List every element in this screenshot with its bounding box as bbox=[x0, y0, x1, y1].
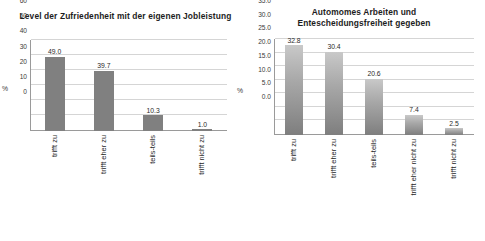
chart-panel-left: Level der Zufriedenheit mit der eigenen … bbox=[0, 0, 243, 241]
y-axis-labels-right: 0.05.010.015.020.025.030.035.0 bbox=[243, 0, 271, 241]
y-tick-label: 5.0 bbox=[262, 79, 271, 86]
y-tick-label: 60 bbox=[20, 0, 27, 4]
x-tick-slot: trifft nicht zu bbox=[178, 133, 227, 229]
y-tick-label: 35.0 bbox=[258, 0, 271, 4]
y-tick-label: 30 bbox=[20, 42, 27, 49]
y-tick-label: 15.0 bbox=[258, 51, 271, 58]
x-tick-slot: trifft eher zu bbox=[79, 133, 128, 229]
y-axis-unit-left: % bbox=[2, 85, 8, 92]
bar[interactable] bbox=[143, 115, 163, 131]
bar-series-left: 49.039.710.31.0 bbox=[30, 40, 227, 131]
bar-series-right: 32.830.420.67.42.5 bbox=[274, 39, 474, 135]
x-tick-slot: teils-teils bbox=[354, 137, 394, 229]
x-tick-slot: trifft eher zu bbox=[314, 137, 354, 229]
bar-slot: 1.0 bbox=[178, 40, 227, 131]
y-tick-label: 20 bbox=[20, 57, 27, 64]
y-tick-label: 10.0 bbox=[258, 65, 271, 72]
bar-value-label: 32.8 bbox=[287, 37, 300, 44]
x-tick-label: trifft nicht zu bbox=[450, 139, 458, 179]
bar[interactable] bbox=[285, 45, 303, 135]
chart-title-left-line-1: Level der Zufriedenheit mit der eigenen … bbox=[8, 11, 243, 22]
bar-slot: 49.0 bbox=[30, 40, 79, 131]
chart-title-right-line-2: Entescheidungsfreiheit gegeben bbox=[243, 18, 485, 29]
x-tick-label: trifft eher zu bbox=[100, 135, 108, 174]
bar-slot: 30.4 bbox=[314, 39, 354, 135]
bar-slot: 10.3 bbox=[129, 40, 178, 131]
chart-panel-right: Automomes Arbeiten und Entescheidungsfre… bbox=[243, 0, 485, 241]
two-bar-charts-figure: Level der Zufriedenheit mit der eigenen … bbox=[0, 0, 485, 241]
y-axis-labels-left: 0102030405060 bbox=[8, 0, 27, 241]
bar[interactable] bbox=[45, 57, 65, 131]
bar-slot: 7.4 bbox=[394, 39, 434, 135]
x-tick-label: trifft nicht zu bbox=[198, 135, 206, 175]
x-tick-label: trifft eher nicht zu bbox=[410, 139, 418, 196]
x-tick-slot: teils-teils bbox=[129, 133, 178, 229]
bar-value-label: 39.7 bbox=[97, 62, 110, 69]
bar-slot: 20.6 bbox=[354, 39, 394, 135]
bar-value-label: 2.5 bbox=[449, 120, 458, 127]
bar-value-label: 20.6 bbox=[367, 70, 380, 77]
chart-title-right-line-1: Automomes Arbeiten und bbox=[243, 7, 485, 18]
bar-value-label: 10.3 bbox=[147, 107, 160, 114]
y-tick-label: 10 bbox=[20, 72, 27, 79]
plot-area-left: 49.039.710.31.0 bbox=[30, 40, 227, 131]
x-tick-label: trifft zu bbox=[290, 139, 298, 161]
x-tick-label: teils-teils bbox=[149, 135, 157, 164]
x-tick-slot: trifft nicht zu bbox=[434, 137, 474, 229]
x-tick-slot: trifft zu bbox=[274, 137, 314, 229]
bar-value-label: 1.0 bbox=[198, 121, 207, 128]
x-tick-label: trifft eher zu bbox=[330, 139, 338, 178]
x-tick-label: teils-teils bbox=[370, 139, 378, 168]
bar[interactable] bbox=[325, 52, 343, 135]
bar[interactable] bbox=[365, 79, 383, 136]
x-tick-slot: trifft eher nicht zu bbox=[394, 137, 434, 229]
bar[interactable] bbox=[94, 71, 114, 131]
bar-value-label: 49.0 bbox=[48, 48, 61, 55]
y-tick-label: 30.0 bbox=[258, 10, 271, 17]
bar[interactable] bbox=[405, 115, 423, 135]
bar-slot: 32.8 bbox=[274, 39, 314, 135]
bar-slot: 2.5 bbox=[434, 39, 474, 135]
bar[interactable] bbox=[445, 128, 463, 135]
x-axis-labels-right: trifft zutrifft eher zuteils-teilstrifft… bbox=[274, 137, 474, 229]
y-tick-label: 20.0 bbox=[258, 38, 271, 45]
x-tick-label: trifft zu bbox=[51, 135, 59, 157]
y-axis-unit-right: % bbox=[237, 87, 243, 94]
y-tick-label: 25.0 bbox=[258, 24, 271, 31]
chart-title-left: Level der Zufriedenheit mit der eigenen … bbox=[0, 11, 243, 22]
bar[interactable] bbox=[192, 129, 212, 131]
bar-slot: 39.7 bbox=[79, 40, 128, 131]
y-tick-label: 40 bbox=[20, 27, 27, 34]
plot-area-right: 32.830.420.67.42.5 bbox=[274, 39, 474, 135]
y-tick-label: 0 bbox=[23, 88, 27, 95]
y-tick-label: 0.0 bbox=[262, 93, 271, 100]
bar-value-label: 30.4 bbox=[327, 43, 340, 50]
y-tick-label: 50 bbox=[20, 12, 27, 19]
bar-value-label: 7.4 bbox=[409, 106, 418, 113]
x-tick-slot: trifft zu bbox=[30, 133, 79, 229]
x-axis-labels-left: trifft zutrifft eher zuteils-teilstrifft… bbox=[30, 133, 227, 229]
chart-title-right: Automomes Arbeiten und Entescheidungsfre… bbox=[243, 7, 485, 29]
